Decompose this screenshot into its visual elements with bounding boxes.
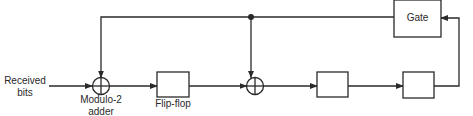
adder-label-line1: Modulo-2 [78, 94, 124, 106]
junction-dot [248, 14, 254, 20]
flipflop-box [157, 72, 189, 97]
edge-junction-adder1 [101, 17, 251, 78]
adder1-xor-icon [93, 78, 110, 95]
gate-label: Gate [394, 12, 441, 24]
shift-register-box-3 [403, 72, 434, 98]
adder-label-line2: adder [78, 106, 124, 116]
input-label-line1: Received [2, 75, 48, 87]
flipflop-label: Flip-flop [150, 98, 196, 110]
shift-register-box-2 [317, 72, 348, 97]
adder2-xor-icon [247, 78, 264, 95]
input-label: Received bits [2, 75, 48, 99]
input-label-line2: bits [2, 87, 48, 99]
adder-label: Modulo-2 adder [78, 94, 124, 116]
